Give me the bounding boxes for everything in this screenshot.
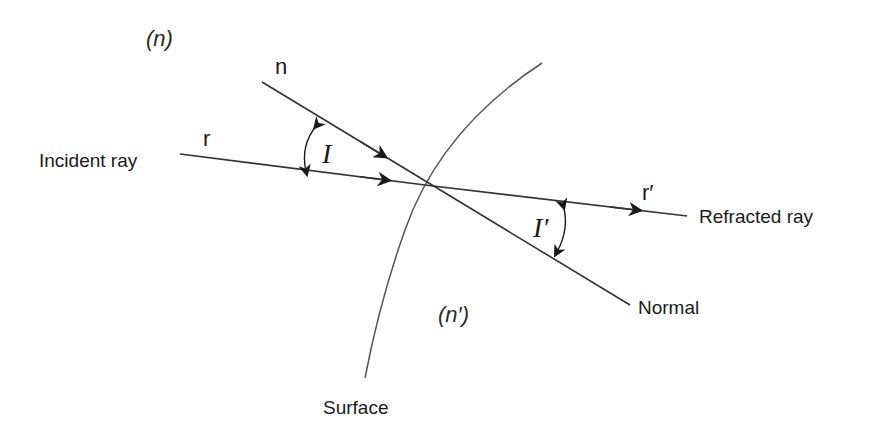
- angle-i-label: I: [321, 138, 333, 169]
- normal-label: Normal: [638, 297, 699, 318]
- angle-i-prime-label: I′: [532, 212, 549, 243]
- incident-ray-line: [180, 154, 433, 186]
- angle-i-arc: [304, 125, 317, 171]
- medium-n-label: (n): [146, 26, 173, 51]
- incident-symbol: r: [203, 126, 210, 151]
- refraction-diagram: (n) (n′) n r r′ I I′ Incident ray Refrac…: [0, 0, 878, 434]
- angle-i-prime-arc: [557, 205, 565, 252]
- incident-arrow-icon: [360, 177, 385, 180]
- normal-symbol: n: [275, 54, 287, 79]
- normal-arrow-icon: [360, 141, 382, 154]
- surface-label: Surface: [323, 397, 388, 418]
- refracted-ray-label: Refracted ray: [699, 206, 814, 227]
- refracted-arrow-icon: [610, 207, 636, 210]
- surface-curve: [365, 63, 542, 378]
- medium-n-prime-label: (n′): [438, 302, 469, 327]
- normal-line: [262, 82, 630, 305]
- incident-ray-label: Incident ray: [39, 150, 138, 171]
- refracted-symbol: r′: [642, 180, 653, 205]
